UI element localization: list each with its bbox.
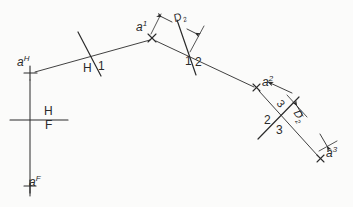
fold-label-23-left: 2 (264, 114, 271, 126)
fold-label-12-left: 1 (185, 55, 192, 67)
drawing-canvas: aH aF a1 a2 a3 H F H 1 1 2 2 3 D2 (0, 0, 353, 207)
fold-label-h1-left: H (83, 62, 92, 74)
fold-label-23-right: 3 (276, 124, 283, 136)
point-label-a2: a2 (262, 76, 273, 88)
marker-a2-x (253, 84, 260, 91)
point-label-ah: aH (17, 56, 29, 68)
extension-line-upper-left (151, 14, 161, 34)
point-label-af: aF (29, 176, 41, 188)
point-label-a3: a3 (326, 147, 337, 159)
marker-a3-x (317, 155, 324, 162)
projector-ah-to-a1 (35, 40, 150, 72)
dimension-arrow-upper-right (187, 29, 195, 33)
fold-label-f: F (45, 119, 52, 131)
dimension-arrow-upper-left (162, 17, 172, 22)
dimension-arrow-lower-bottom (320, 134, 327, 146)
marker-a1-x (148, 34, 156, 42)
point-label-a1: a1 (136, 21, 147, 33)
fold-label-h: H (44, 105, 53, 117)
geometry-linework (0, 0, 353, 207)
projector-a1-to-a2 (156, 41, 254, 87)
fold-label-h1-right: 1 (98, 60, 105, 72)
extension-line-upper-right (190, 26, 204, 52)
fold-label-12-right: 2 (195, 56, 202, 68)
